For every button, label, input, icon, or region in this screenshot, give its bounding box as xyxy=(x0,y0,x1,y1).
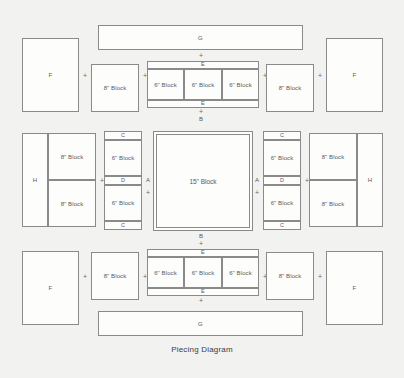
block-6in-bottom-3: 6" Block xyxy=(222,257,259,288)
strip-e-bottom-below: E xyxy=(147,288,259,296)
block-8in-mid-left-bottom-label: 8" Block xyxy=(61,201,84,207)
block-6in-mid-left-top-label: 6" Block xyxy=(112,155,135,161)
strip-e-bottom-below-label: E xyxy=(201,289,205,295)
block-15in-center-label: 15" Block xyxy=(189,178,216,185)
corner-block-f-bottom-right-label: F xyxy=(353,285,357,291)
sash-h-left-label: H xyxy=(33,177,37,183)
strip-c-left-top-label: C xyxy=(121,133,125,139)
block-8in-mid-right-bottom: 8" Block xyxy=(309,180,357,227)
block-8in-mid-right-top: 8" Block xyxy=(309,133,357,180)
block-6in-bottom-2-label: 6" Block xyxy=(192,270,215,276)
block-6in-mid-right-bottom: 6" Block xyxy=(263,185,301,221)
strip-c-right-top: C xyxy=(263,131,301,140)
block-8in-mid-left-top: 8" Block xyxy=(48,133,96,180)
strip-c-right-bottom: C xyxy=(263,221,301,230)
strip-c-left-top: C xyxy=(104,131,142,140)
block-8in-mid-left-bottom: 8" Block xyxy=(48,180,96,227)
strip-d-right-label: D xyxy=(280,178,284,184)
block-6in-top-1-label: 6" Block xyxy=(154,82,177,88)
block-6in-bottom-3-label: 6" Block xyxy=(229,270,252,276)
diagram-caption: Piecing Diagram xyxy=(0,345,404,354)
sash-g-bottom: G xyxy=(98,311,303,336)
joiner-label-a-right: A xyxy=(252,176,262,184)
block-8in-top-right: 8" Block xyxy=(266,64,314,112)
block-8in-bottom-right: 8" Block xyxy=(266,252,314,300)
joiner-plus-a-right: + xyxy=(252,188,262,196)
block-6in-mid-left-top: 6" Block xyxy=(104,140,142,176)
joiner-label-b-bottom: B xyxy=(193,232,209,240)
joiner-plus-top-row-1: + xyxy=(79,71,91,79)
block-6in-mid-right-top-label: 6" Block xyxy=(271,155,294,161)
strip-e-bottom-above: E xyxy=(147,249,259,257)
joiner-plus-a-left: + xyxy=(143,188,153,196)
strip-e-top-below-label: E xyxy=(201,101,205,107)
sash-h-right-label: H xyxy=(368,177,372,183)
block-15in-center: 15" Block xyxy=(156,134,250,228)
corner-block-f-top-right: F xyxy=(326,38,383,112)
joiner-plus-top-e: + xyxy=(193,108,209,115)
sash-g-top: G xyxy=(98,25,303,50)
sash-g-top-label: G xyxy=(198,35,203,41)
strip-c-right-top-label: C xyxy=(280,133,284,139)
piecing-diagram: G + F + 8" Block + E 6" Block 6" Block 6… xyxy=(0,0,404,378)
block-6in-mid-left-bottom: 6" Block xyxy=(104,185,142,221)
block-6in-top-1: 6" Block xyxy=(147,69,184,100)
block-6in-top-2: 6" Block xyxy=(184,69,222,100)
corner-block-f-bottom-left: F xyxy=(22,251,79,325)
strip-c-left-bottom-label: C xyxy=(121,223,125,229)
block-8in-top-left-label: 8" Block xyxy=(104,85,127,91)
corner-block-f-top-right-label: F xyxy=(353,72,357,78)
block-8in-top-right-label: 8" Block xyxy=(279,85,302,91)
block-8in-mid-left-top-label: 8" Block xyxy=(61,154,84,160)
block-6in-top-2-label: 6" Block xyxy=(192,82,215,88)
block-8in-mid-right-bottom-label: 8" Block xyxy=(322,201,345,207)
strip-c-left-bottom: C xyxy=(104,221,142,230)
sash-h-left: H xyxy=(22,133,48,227)
strip-e-bottom-above-label: E xyxy=(201,250,205,256)
sash-h-right: H xyxy=(357,133,383,227)
corner-block-f-top-left: F xyxy=(22,38,79,112)
block-6in-bottom-1-label: 6" Block xyxy=(154,270,177,276)
block-8in-top-left: 8" Block xyxy=(91,64,139,112)
joiner-plus-top-g: + xyxy=(193,52,209,59)
block-6in-mid-right-bottom-label: 6" Block xyxy=(271,200,294,206)
block-6in-top-3: 6" Block xyxy=(222,69,259,100)
strip-c-right-bottom-label: C xyxy=(280,223,284,229)
block-8in-bottom-right-label: 8" Block xyxy=(279,273,302,279)
block-6in-mid-left-bottom-label: 6" Block xyxy=(112,200,135,206)
joiner-label-b-top: B xyxy=(193,115,209,123)
block-6in-bottom-2: 6" Block xyxy=(184,257,222,288)
sash-g-bottom-label: G xyxy=(198,321,203,327)
corner-block-f-bottom-left-label: F xyxy=(49,285,53,291)
joiner-plus-bottom-e: + xyxy=(193,240,209,247)
strip-e-top-below: E xyxy=(147,100,259,108)
block-6in-bottom-1: 6" Block xyxy=(147,257,184,288)
strip-d-left: D xyxy=(104,176,142,185)
strip-e-top-above: E xyxy=(147,61,259,69)
strip-d-right: D xyxy=(263,176,301,185)
block-8in-bottom-left: 8" Block xyxy=(91,252,139,300)
corner-block-f-bottom-right: F xyxy=(326,251,383,325)
joiner-plus-bottom-row-1: + xyxy=(79,272,91,280)
joiner-plus-bottom-g: + xyxy=(193,297,209,304)
joiner-label-a-left: A xyxy=(143,176,153,184)
joiner-plus-top-row-4: + xyxy=(314,71,326,79)
strip-d-left-label: D xyxy=(121,178,125,184)
strip-e-top-above-label: E xyxy=(201,62,205,68)
joiner-plus-bottom-row-4: + xyxy=(314,272,326,280)
block-8in-mid-right-top-label: 8" Block xyxy=(322,154,345,160)
block-8in-bottom-left-label: 8" Block xyxy=(104,273,127,279)
block-6in-top-3-label: 6" Block xyxy=(229,82,252,88)
corner-block-f-top-left-label: F xyxy=(49,72,53,78)
block-6in-mid-right-top: 6" Block xyxy=(263,140,301,176)
